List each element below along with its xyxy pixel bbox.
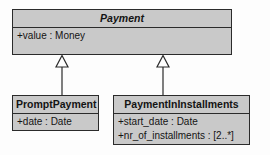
- uml-class-name-prompt-payment: PromptPayment: [13, 96, 98, 114]
- uml-class-name-payment: Payment: [13, 10, 231, 28]
- uml-class-payment[interactable]: Payment +value : Money: [12, 9, 232, 55]
- uml-attribute: +nr_of_installments : [2..*]: [114, 129, 249, 143]
- uml-class-diagram-canvas: Payment +value : Money PromptPayment +da…: [0, 0, 270, 155]
- uml-attribute: +value : Money: [13, 29, 231, 43]
- generalization-payment-in-installments-to-payment[interactable]: [157, 56, 169, 96]
- generalization-prompt-payment-to-payment[interactable]: [56, 56, 68, 96]
- uml-class-name-payment-in-installments: PaymentInInstallments: [114, 96, 249, 114]
- uml-attribute: +date : Date: [13, 115, 98, 129]
- hollow-triangle-arrowhead-icon: [56, 56, 68, 68]
- uml-attributes-compartment-prompt-payment: +date : Date: [13, 114, 98, 130]
- uml-class-payment-in-installments[interactable]: PaymentInInstallments +start_date : Date…: [113, 95, 250, 145]
- uml-class-prompt-payment[interactable]: PromptPayment +date : Date: [12, 95, 99, 131]
- uml-attributes-compartment-payment: +value : Money: [13, 28, 231, 54]
- hollow-triangle-arrowhead-icon: [157, 56, 169, 68]
- uml-attribute: +start_date : Date: [114, 115, 249, 129]
- uml-attributes-compartment-payment-in-installments: +start_date : Date +nr_of_installments :…: [114, 114, 249, 144]
